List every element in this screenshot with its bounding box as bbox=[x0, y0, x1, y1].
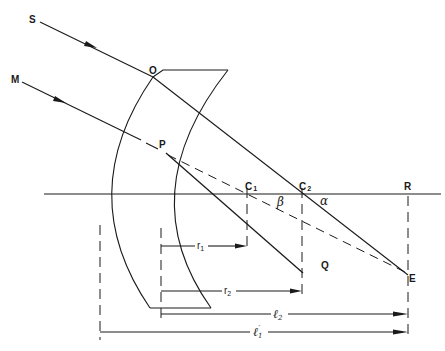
dim-l2-label: ℓ2 bbox=[273, 307, 283, 322]
ray-m-p-dashed bbox=[146, 143, 158, 149]
ray-m-arrow-icon bbox=[53, 96, 66, 103]
label-p: P bbox=[159, 139, 166, 150]
ray-o-e bbox=[153, 77, 408, 275]
label-c2: C2 bbox=[299, 181, 311, 192]
label-q: Q bbox=[321, 260, 329, 271]
lens-outer-surface bbox=[112, 77, 153, 308]
label-r: R bbox=[404, 181, 412, 192]
lens-ray-diagram: r1 r2 ℓ2 ℓ1′ S M O P C1 C2 R Q E β α bbox=[0, 0, 445, 351]
dim-l2-arrow-icon bbox=[393, 312, 408, 317]
dim-r2-arrow-icon bbox=[290, 289, 302, 294]
lens-inner-surface bbox=[174, 70, 228, 308]
dim-l1p-arrow-icon bbox=[393, 330, 408, 335]
ray-s-arrow-icon bbox=[84, 41, 97, 48]
ray-p-e-dashed bbox=[168, 155, 405, 272]
label-c1: C1 bbox=[245, 181, 257, 192]
label-m: M bbox=[11, 74, 19, 85]
label-s: S bbox=[29, 14, 36, 25]
dim-r1-arrow-icon bbox=[235, 244, 247, 249]
label-e: E bbox=[409, 273, 416, 284]
dim-r2-label: r2 bbox=[224, 285, 231, 297]
dim-r1-label: r1 bbox=[197, 240, 204, 252]
label-o: O bbox=[149, 65, 157, 76]
ray-m-p bbox=[22, 82, 141, 140]
label-beta: β bbox=[276, 195, 284, 209]
ray-s-o bbox=[40, 22, 153, 77]
ray-p-q bbox=[166, 153, 303, 273]
lens-top-edge bbox=[153, 70, 228, 77]
dim-l1p-label: ℓ1′ bbox=[253, 324, 262, 340]
label-alpha: α bbox=[320, 194, 328, 208]
